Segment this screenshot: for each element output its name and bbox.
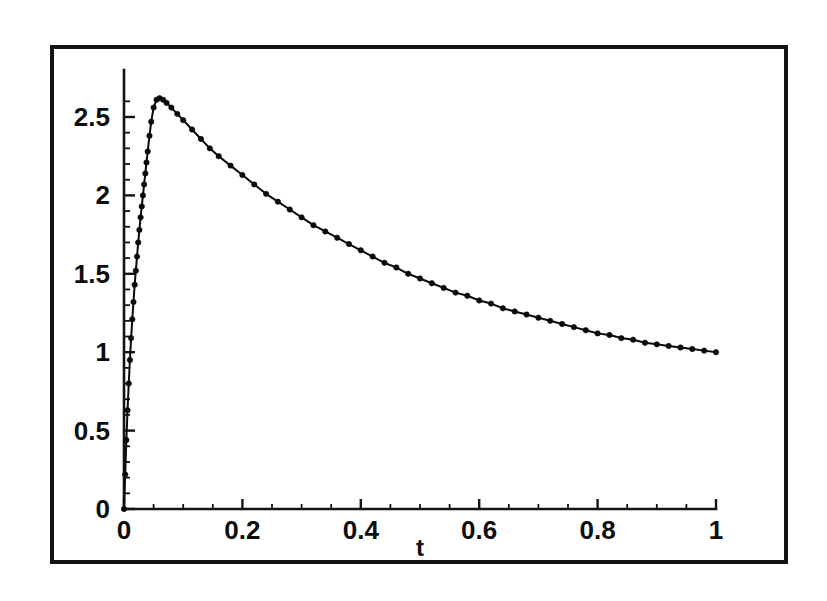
data-point-marker (488, 301, 493, 306)
data-point-marker (465, 293, 470, 298)
y-tick-label: 2 (96, 180, 110, 210)
data-point-marker (595, 331, 600, 336)
y-tick-label: 1.5 (74, 259, 110, 289)
data-point-marker (198, 136, 203, 141)
data-point-marker (216, 154, 221, 159)
y-tick-label: 2.5 (74, 102, 110, 132)
data-point-marker (189, 127, 194, 132)
data-point-marker (299, 215, 304, 220)
y-tick-label: 1 (96, 337, 110, 367)
data-point-marker (136, 240, 141, 245)
data-point-marker (311, 222, 316, 227)
data-point-marker (287, 207, 292, 212)
data-point-marker (619, 335, 624, 340)
x-tick-label: 0.2 (224, 515, 260, 545)
data-point-marker (122, 472, 127, 477)
data-point-marker (141, 182, 146, 187)
data-point-marker (524, 312, 529, 317)
data-point-marker (134, 254, 139, 259)
data-point-marker (132, 282, 137, 287)
y-tick-label: 0.5 (74, 416, 110, 446)
data-point-marker (145, 149, 150, 154)
data-point-marker (358, 248, 363, 253)
data-point-marker (346, 241, 351, 246)
data-point-marker (477, 298, 482, 303)
x-tick-label: 1 (709, 515, 723, 545)
data-point-marker (175, 111, 180, 116)
data-point-marker (607, 332, 612, 337)
data-point-marker (240, 172, 245, 177)
data-point-marker (121, 506, 126, 511)
data-point-marker (137, 227, 142, 232)
data-point-marker (126, 381, 131, 386)
data-point-marker (125, 408, 130, 413)
data-point-marker (147, 133, 152, 138)
data-point-marker (169, 105, 174, 110)
plot-canvas: 00.20.40.60.8100.511.522.5 t (0, 0, 827, 601)
data-point-marker (263, 191, 268, 196)
data-point-marker (143, 171, 148, 176)
data-point-marker (394, 265, 399, 270)
data-point-marker (512, 309, 517, 314)
y-tick-label: 0 (96, 494, 110, 524)
data-point-marker (630, 337, 635, 342)
data-point-marker (417, 276, 422, 281)
data-point-marker (128, 335, 133, 340)
data-point-marker (275, 199, 280, 204)
x-tick-label: 0.8 (580, 515, 616, 545)
data-point-marker (370, 254, 375, 259)
data-point-marker (130, 317, 135, 322)
data-point-marker (548, 318, 553, 323)
data-point-marker (207, 146, 212, 151)
data-point-marker (654, 342, 659, 347)
data-point-marker (127, 357, 132, 362)
data-point-marker (144, 160, 149, 165)
data-point-marker (252, 182, 257, 187)
data-point-marker (429, 281, 434, 286)
data-point-marker (500, 306, 505, 311)
data-point-marker (559, 321, 564, 326)
data-point-marker (133, 268, 138, 273)
data-point-marker (139, 204, 144, 209)
data-point-marker (571, 324, 576, 329)
data-point-marker (441, 285, 446, 290)
x-axis-title: t (416, 534, 424, 561)
data-point-marker (228, 163, 233, 168)
data-point-marker (131, 299, 136, 304)
data-point-marker (405, 271, 410, 276)
data-point-marker (713, 350, 718, 355)
data-point-marker (334, 235, 339, 240)
data-point-marker (124, 437, 129, 442)
data-point-marker (181, 117, 186, 122)
data-point-marker (149, 119, 154, 124)
figure-root: 00.20.40.60.8100.511.522.5 t (0, 0, 827, 601)
data-point-marker (666, 343, 671, 348)
data-point-marker (164, 100, 169, 105)
x-tick-label: 0.6 (461, 515, 497, 545)
data-point-marker (690, 346, 695, 351)
data-point-marker (140, 193, 145, 198)
data-point-marker (642, 340, 647, 345)
data-point-marker (323, 229, 328, 234)
data-point-marker (701, 348, 706, 353)
data-point-marker (678, 345, 683, 350)
x-tick-label: 0 (117, 515, 131, 545)
x-tick-label: 0.4 (343, 515, 380, 545)
data-point-marker (138, 215, 143, 220)
data-point-marker (583, 328, 588, 333)
data-point-marker (151, 105, 156, 110)
data-point-marker (453, 290, 458, 295)
data-point-marker (536, 315, 541, 320)
data-point-marker (382, 260, 387, 265)
